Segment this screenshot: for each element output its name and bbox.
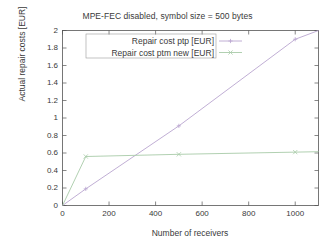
legend-entry-ptp: Repair cost ptp [EUR]	[46, 36, 214, 46]
chart-figure: MPE-FEC disabled, symbol size = 500 byte…	[0, 0, 335, 251]
legend-entry-ptm: Repair cost ptm new [EUR]	[46, 48, 214, 58]
